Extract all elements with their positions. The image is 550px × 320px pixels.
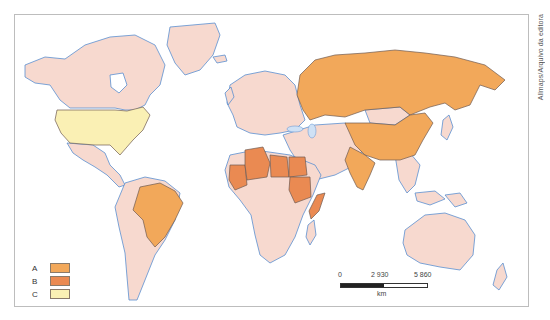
legend-item-b: B xyxy=(32,275,70,287)
legend-item-c: C xyxy=(32,288,70,300)
legend-swatch-a xyxy=(50,263,70,273)
australia xyxy=(403,213,475,270)
united-states xyxy=(55,107,150,155)
legend-swatch-b xyxy=(50,276,70,286)
scale-tick-0: 0 xyxy=(338,271,342,278)
legend-label: C xyxy=(32,290,42,299)
libya xyxy=(270,155,289,177)
scale-tick-max: 5 860 xyxy=(414,271,432,278)
greenland xyxy=(167,23,220,75)
world-map xyxy=(15,15,528,306)
world-map-frame: A B C 0 2 930 5 860 km xyxy=(14,14,529,307)
canada-alaska xyxy=(25,35,165,110)
legend-label: B xyxy=(32,277,42,286)
legend-item-a: A xyxy=(32,262,70,274)
image-credit: Allmaps/Arquivo da editora xyxy=(537,14,544,100)
europe xyxy=(227,71,305,135)
scale-tick-mid: 2 930 xyxy=(371,271,389,278)
scale-unit: km xyxy=(377,290,386,297)
scale-bar: 0 2 930 5 860 km xyxy=(338,271,438,301)
scale-bar-graphic xyxy=(340,283,428,288)
legend: A B C xyxy=(32,262,70,301)
legend-swatch-c xyxy=(50,289,70,299)
egypt xyxy=(289,157,307,177)
legend-label: A xyxy=(32,264,42,273)
